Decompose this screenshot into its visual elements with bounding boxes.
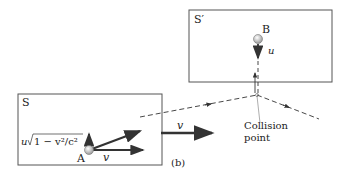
outgoing-trajectory-arrow-icon	[283, 105, 289, 108]
collision-label-line2: point	[244, 132, 270, 143]
a-resultant-velocity-arrow-icon	[92, 131, 140, 149]
collision-diagram: S S′ Collision point A v u 1 − v²/c² v B…	[0, 0, 344, 179]
a-vertical-velocity-label: u 1 − v²/c²	[21, 134, 83, 147]
frame-s-label: S	[22, 96, 30, 109]
particle-b-label: B	[262, 23, 270, 36]
particle-a-ball	[85, 146, 94, 155]
panel-label: (b)	[171, 157, 185, 168]
frame-s-prime-label: S′	[194, 13, 205, 26]
a-trajectory-dashed	[140, 95, 257, 117]
frame-s-prime: S′	[189, 10, 332, 82]
b-velocity-label: u	[268, 45, 274, 56]
a-trajectory-arrow-icon	[205, 104, 211, 105]
svg-text:1 − v²/c²: 1 − v²/c²	[34, 136, 78, 147]
frame-velocity-label: v	[177, 119, 184, 132]
a-horizontal-velocity-label: v	[103, 151, 110, 164]
collision-label-line1: Collision	[244, 120, 289, 131]
collision-leader-line	[257, 96, 260, 123]
svg-text:u: u	[21, 136, 27, 147]
particle-a-label: A	[76, 152, 86, 165]
